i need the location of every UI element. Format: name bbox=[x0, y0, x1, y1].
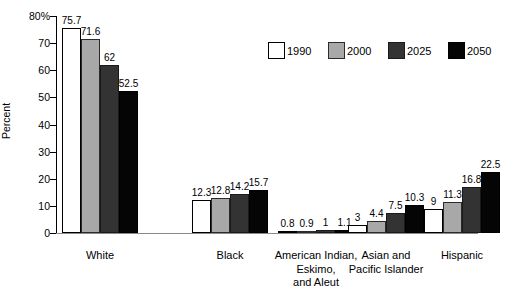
bar bbox=[462, 187, 481, 233]
y-axis-tick-label: 70 bbox=[6, 38, 50, 48]
bar bbox=[405, 205, 424, 233]
y-axis-tick-label: 30 bbox=[6, 147, 50, 157]
y-axis-tick-mark bbox=[50, 125, 56, 126]
y-axis-tick-label-wrap: 70 bbox=[0, 38, 50, 48]
y-axis-title: Percent bbox=[0, 91, 12, 151]
bar-value-label: 15.7 bbox=[240, 178, 277, 188]
y-axis-tick-label: 0 bbox=[6, 228, 50, 238]
bar bbox=[119, 91, 138, 233]
bar bbox=[481, 172, 500, 233]
y-axis-tick-label-wrap: 0 bbox=[0, 228, 50, 238]
legend-swatch-icon bbox=[268, 42, 285, 59]
legend-label: 1990 bbox=[287, 45, 311, 57]
bar bbox=[348, 225, 367, 233]
bar bbox=[211, 198, 230, 233]
legend-label: 2000 bbox=[347, 45, 371, 57]
bar bbox=[62, 28, 81, 233]
y-axis-tick-mark bbox=[50, 179, 56, 180]
y-axis-tick-label-wrap: 60 bbox=[0, 65, 50, 75]
category-label: Hispanic bbox=[402, 249, 505, 263]
legend-swatch-icon bbox=[328, 42, 345, 59]
y-axis-tick-mark bbox=[50, 206, 56, 207]
bar-value-label: 52.5 bbox=[110, 79, 147, 89]
legend-label: 2050 bbox=[467, 45, 491, 57]
y-axis-tick-label: 60 bbox=[6, 65, 50, 75]
y-axis-tick-mark bbox=[50, 97, 56, 98]
y-axis-tick-mark bbox=[50, 43, 56, 44]
y-axis-tick-label: 10 bbox=[6, 201, 50, 211]
bar bbox=[249, 190, 268, 233]
y-axis-tick-label-wrap: 20 bbox=[0, 174, 50, 184]
bar bbox=[100, 65, 119, 233]
y-axis-tick-label: 80% bbox=[6, 11, 50, 21]
bar-value-label: 62 bbox=[91, 53, 128, 63]
y-axis-tick-mark bbox=[50, 70, 56, 71]
bar-value-label: 22.5 bbox=[472, 160, 505, 170]
legend-swatch-icon bbox=[388, 42, 405, 59]
y-axis-tick-label: 20 bbox=[6, 174, 50, 184]
y-axis-tick-label: 40 bbox=[6, 120, 50, 130]
bar bbox=[443, 202, 462, 233]
bar bbox=[316, 230, 335, 233]
legend-label: 2025 bbox=[407, 45, 431, 57]
bar bbox=[386, 213, 405, 233]
y-axis-line bbox=[56, 16, 57, 233]
bar bbox=[81, 39, 100, 233]
y-axis-tick-label-wrap: 80% bbox=[0, 11, 50, 21]
y-axis-tick-label-wrap: 10 bbox=[0, 201, 50, 211]
bar-value-label: 71.6 bbox=[72, 27, 109, 37]
bar bbox=[230, 194, 249, 233]
bar bbox=[424, 209, 443, 233]
bar bbox=[367, 221, 386, 233]
category-label: White bbox=[40, 249, 160, 263]
y-axis-tick-label: 50 bbox=[6, 92, 50, 102]
bar bbox=[278, 231, 297, 233]
bar-value-label: 75.7 bbox=[53, 16, 90, 26]
x-axis-line bbox=[56, 233, 478, 234]
y-axis-tick-mark bbox=[50, 152, 56, 153]
legend-swatch-icon bbox=[448, 42, 465, 59]
bar bbox=[297, 231, 316, 233]
bar bbox=[192, 200, 211, 233]
